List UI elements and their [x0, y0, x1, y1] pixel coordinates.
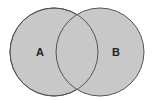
set-b-circle	[56, 8, 144, 96]
venn-diagram: A B	[0, 0, 153, 101]
set-a-label: A	[36, 46, 44, 58]
set-b-label: B	[112, 46, 120, 58]
